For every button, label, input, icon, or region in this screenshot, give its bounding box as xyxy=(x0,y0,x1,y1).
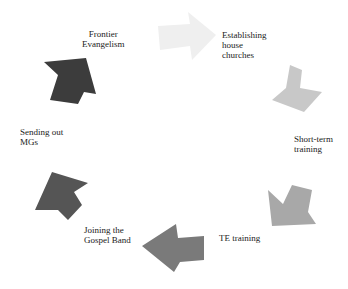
arrow-left-icon xyxy=(142,224,204,272)
step-label-sending-out-mgs: Sending out MGs xyxy=(20,127,63,147)
arrow-right-icon xyxy=(158,12,216,60)
arrow-down-right-icon xyxy=(272,65,322,112)
step-label-joining-gospel-band: Joining the Gospel Band xyxy=(84,225,131,245)
arrow-up-right-icon xyxy=(44,58,96,104)
arrow-up-left-icon xyxy=(35,172,88,220)
step-label-frontier-evangelism: Frontier Evangelism xyxy=(82,29,125,49)
step-label-short-term-training: Short-term training xyxy=(294,134,333,154)
step-label-establishing-house-churches: Establishing house churches xyxy=(222,30,267,60)
arrow-down-left-icon xyxy=(268,185,316,226)
step-label-te-training: TE training xyxy=(219,233,260,243)
